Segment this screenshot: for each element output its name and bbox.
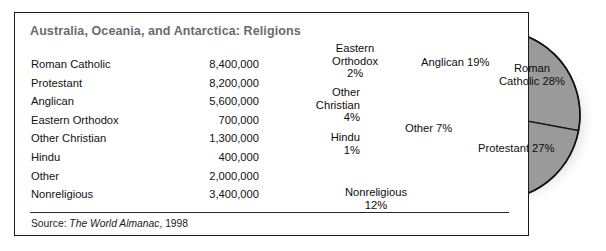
- pie-label-protestant: Protestant 27%: [478, 142, 548, 155]
- source-divider: [30, 212, 509, 213]
- pie-label-text-line1: Eastern: [336, 42, 375, 54]
- pie-label-text-line1: Anglican: [421, 56, 464, 68]
- source-publication: The World Almanac: [69, 218, 159, 229]
- pie-label-other: Other 7%: [405, 122, 451, 135]
- pie-label-text-line1: Nonreligious: [345, 186, 407, 198]
- pie-label-percent: 27%: [532, 142, 554, 154]
- table-cell-value: 400,000: [176, 148, 261, 167]
- table-row: Eastern Orthodox 700,000: [31, 111, 261, 130]
- pie-label-nonreligious: Nonreligious 12%: [332, 186, 420, 211]
- pie-label-percent: 12%: [332, 199, 420, 212]
- pie-label-percent: 1%: [300, 144, 360, 157]
- pie-label-percent: 19%: [467, 56, 489, 68]
- table-cell-name: Nonreligious: [31, 185, 176, 204]
- table-cell-name: Other: [31, 167, 176, 186]
- table-cell-value: 5,600,000: [176, 92, 261, 111]
- table-row: Protestant 8,200,000: [31, 74, 261, 93]
- pie-label-text-line1: Hindu: [331, 131, 360, 143]
- table-cell-value: 8,200,000: [176, 74, 261, 93]
- table-cell-name: Eastern Orthodox: [31, 111, 176, 130]
- table-cell-name: Hindu: [31, 148, 176, 167]
- table-cell-value: 700,000: [176, 111, 261, 130]
- source-note: Source: The World Almanac, 1998: [31, 218, 188, 229]
- pie-label-other-christian: Other Christian 4%: [282, 86, 360, 124]
- pie-label-text-line2: Christian: [316, 99, 360, 111]
- source-prefix: Source:: [31, 218, 69, 229]
- pie-label-text-line1: Roman: [514, 62, 550, 74]
- table-cell-name: Other Christian: [31, 129, 176, 148]
- pie-label-text-line1: Other: [332, 86, 360, 98]
- source-suffix: , 1998: [159, 218, 188, 229]
- pie-label-text-line2: Orthodox: [332, 55, 378, 67]
- pie-label-anglican: Anglican 19%: [421, 56, 485, 69]
- page-title: Australia, Oceania, and Antarctica: Reli…: [30, 24, 301, 38]
- pie-label-percent: 2%: [316, 67, 394, 80]
- table-cell-name: Protestant: [31, 74, 176, 93]
- figure-container: Australia, Oceania, and Antarctica: Reli…: [0, 0, 606, 251]
- table-cell-value: 1,300,000: [176, 129, 261, 148]
- pie-label-text-line1: Protestant: [478, 142, 529, 154]
- pie-label-percent: 28%: [543, 75, 565, 87]
- table-row: Hindu 400,000: [31, 148, 261, 167]
- pie-label-roman-catholic: Roman Catholic 28%: [498, 62, 566, 87]
- table-row: Anglican 5,600,000: [31, 92, 261, 111]
- table-cell-name: Anglican: [31, 92, 176, 111]
- pie-label-text-line2: Catholic: [499, 75, 539, 87]
- religion-data-table: Roman Catholic 8,400,000 Protestant 8,20…: [31, 55, 261, 204]
- table-row: Nonreligious 3,400,000: [31, 185, 261, 204]
- table-cell-value: 8,400,000: [176, 55, 261, 74]
- table-row: Roman Catholic 8,400,000: [31, 55, 261, 74]
- pie-label-text-line1: Other: [405, 122, 433, 134]
- table-cell-value: 2,000,000: [176, 167, 261, 186]
- pie-label-hindu: Hindu 1%: [300, 131, 360, 156]
- pie-label-eastern-orthodox: Eastern Orthodox 2%: [316, 42, 394, 80]
- table-row: Other Christian 1,300,000: [31, 129, 261, 148]
- table-cell-name: Roman Catholic: [31, 55, 176, 74]
- pie-label-percent: 7%: [436, 122, 452, 134]
- table-cell-value: 3,400,000: [176, 185, 261, 204]
- table-row: Other 2,000,000: [31, 167, 261, 186]
- pie-label-percent: 4%: [282, 111, 360, 124]
